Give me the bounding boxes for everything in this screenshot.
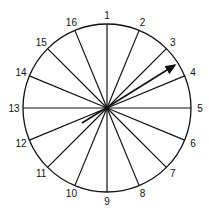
spoke-label: 7	[170, 168, 176, 179]
spoke-label: 12	[16, 138, 28, 149]
spoke-line	[48, 49, 107, 108]
arrow-icon	[82, 65, 175, 123]
spoke-label: 6	[190, 138, 196, 149]
spoke-label: 3	[170, 37, 176, 48]
spoke-label: 14	[16, 67, 28, 78]
spoke-label: 5	[197, 103, 203, 114]
spoke-label: 16	[66, 17, 78, 28]
radial-diagram: 12345678910111213141516	[0, 0, 209, 214]
spoke-label: 15	[36, 37, 48, 48]
spoke-line	[48, 108, 107, 167]
spoke-label: 11	[36, 168, 47, 179]
spoke-label: 9	[104, 196, 110, 207]
spoke-line	[107, 108, 166, 167]
spoke-label: 8	[140, 188, 146, 199]
hub	[105, 106, 110, 111]
spoke-label: 1	[104, 10, 110, 21]
spoke-line	[107, 49, 166, 108]
spoke-label: 10	[66, 188, 78, 199]
spoke-label: 2	[140, 17, 146, 28]
spoke-label: 4	[190, 67, 196, 78]
spoke-label: 13	[8, 103, 20, 114]
